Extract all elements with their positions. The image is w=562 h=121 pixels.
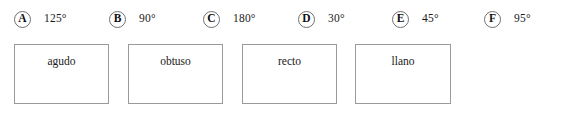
drop-box-agudo[interactable]: agudo <box>14 44 109 104</box>
drop-box-label: agudo <box>15 56 108 68</box>
drop-box-label: recto <box>243 56 336 68</box>
drop-box-recto[interactable]: recto <box>242 44 337 104</box>
drop-box-label: obtuso <box>129 56 222 68</box>
drop-box-obtuso[interactable]: obtuso <box>128 44 223 104</box>
drop-box-llano[interactable]: llano <box>355 44 451 104</box>
drop-box-label: llano <box>356 56 450 68</box>
drop-target-row: agudo obtuso recto llano <box>0 0 562 121</box>
